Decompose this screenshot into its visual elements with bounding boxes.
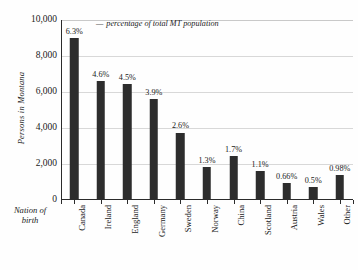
x-axis-category-labels: CanadaIrelandEnglandGermanySwedenNorwayC… bbox=[61, 205, 353, 270]
bar-value-label: 0.98% bbox=[329, 165, 350, 173]
bar-group: 4.5% bbox=[114, 20, 141, 200]
x-axis-tick bbox=[154, 200, 155, 204]
bar bbox=[176, 133, 185, 201]
x-axis-tick bbox=[287, 200, 288, 204]
bar-group: 0.66% bbox=[273, 20, 300, 200]
y-axis-tick-label: 0 bbox=[13, 195, 57, 205]
x-axis-label-canada: Canada bbox=[78, 205, 87, 270]
x-axis-tick bbox=[234, 200, 235, 204]
bar bbox=[256, 171, 265, 200]
y-axis-tick-label: 2,000 bbox=[13, 159, 57, 169]
x-axis-label-england: England bbox=[131, 205, 140, 270]
bar-group: 1.3% bbox=[194, 20, 221, 200]
bar-group: 2.6% bbox=[167, 20, 194, 200]
bar bbox=[123, 84, 132, 200]
x-axis-tick bbox=[61, 200, 62, 204]
x-axis-tick bbox=[74, 200, 75, 204]
bar-group: 3.9% bbox=[141, 20, 168, 200]
x-axis-label-ireland: Ireland bbox=[104, 205, 113, 270]
bar-value-label: 1.7% bbox=[225, 146, 242, 154]
x-axis-tick bbox=[260, 200, 261, 204]
x-axis-tick bbox=[127, 200, 128, 204]
y-axis-tick-label: 4,000 bbox=[13, 123, 57, 133]
bar-value-label: 4.6% bbox=[92, 71, 109, 79]
y-axis-tick-label: 10,000 bbox=[13, 15, 57, 25]
plot-area: 6.3%4.6%4.5%3.9%2.6%1.3%1.7%1.1%0.66%0.5… bbox=[61, 20, 353, 200]
bar-group: 4.6% bbox=[88, 20, 115, 200]
bar bbox=[335, 175, 344, 200]
bar-value-label: 3.9% bbox=[145, 89, 162, 97]
x-axis-label-austria: Austria bbox=[290, 205, 299, 270]
x-axis-label-wales: Wales bbox=[317, 205, 326, 270]
legend-dash: — bbox=[96, 20, 103, 28]
x-axis-label-germany: Germany bbox=[158, 205, 167, 270]
x-axis-label-scotland: Scotland bbox=[264, 205, 273, 270]
bar-value-label: 2.6% bbox=[172, 122, 189, 130]
bar-value-label: 0.5% bbox=[305, 177, 322, 185]
x-axis-tick bbox=[180, 200, 181, 204]
y-axis-tick-labels: 10,0008,0006,0004,0002,0000 bbox=[10, 0, 57, 270]
legend-label: percentage of total MT population bbox=[106, 19, 218, 28]
bar-chart: Persons in Montana 10,0008,0006,0004,000… bbox=[0, 0, 358, 270]
y-axis-tick-label: 8,000 bbox=[13, 51, 57, 61]
bar bbox=[282, 183, 291, 200]
bar bbox=[309, 187, 318, 200]
x-axis-label-sweden: Sweden bbox=[184, 205, 193, 270]
bar-value-label: 4.5% bbox=[119, 74, 136, 82]
bar-value-label: 0.66% bbox=[276, 173, 297, 181]
bar-value-label: 1.3% bbox=[198, 157, 215, 165]
x-axis-label-norway: Norway bbox=[211, 205, 220, 270]
legend-annotation: —percentage of total MT population bbox=[96, 20, 219, 28]
x-axis-tick bbox=[207, 200, 208, 204]
bar-group: 0.5% bbox=[300, 20, 327, 200]
x-axis-tick bbox=[340, 200, 341, 204]
bar bbox=[229, 156, 238, 200]
bar bbox=[97, 81, 106, 200]
bar-group: 1.7% bbox=[220, 20, 247, 200]
bar bbox=[150, 99, 159, 200]
bar-group: 1.1% bbox=[247, 20, 274, 200]
bar-group: 0.98% bbox=[326, 20, 353, 200]
bar bbox=[70, 38, 79, 200]
bar-series: 6.3%4.6%4.5%3.9%2.6%1.3%1.7%1.1%0.66%0.5… bbox=[61, 20, 353, 200]
x-axis-title: Nation ofbirth bbox=[2, 206, 58, 225]
bar-value-label: 6.3% bbox=[66, 28, 83, 36]
x-axis-label-other: Other bbox=[343, 205, 352, 270]
x-axis-tick bbox=[313, 200, 314, 204]
bar bbox=[203, 167, 212, 200]
bar-value-label: 1.1% bbox=[252, 161, 269, 169]
bar-group: 6.3% bbox=[61, 20, 88, 200]
x-axis-tick bbox=[353, 200, 354, 204]
x-axis-label-china: China bbox=[237, 205, 246, 270]
x-axis-tick bbox=[101, 200, 102, 204]
y-axis-tick-label: 6,000 bbox=[13, 87, 57, 97]
